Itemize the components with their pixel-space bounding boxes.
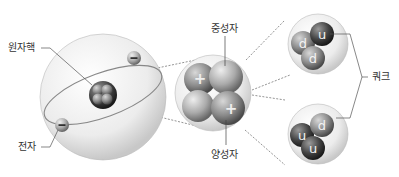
label-proton: 양성자 (211, 150, 238, 160)
label-electron: 전자 (18, 142, 36, 152)
svg-text:d: d (299, 36, 307, 51)
svg-text:u: u (309, 141, 317, 156)
electron-top (127, 51, 141, 65)
label-nucleus: 원자핵 (8, 43, 35, 53)
nucleus (89, 81, 117, 109)
neutron-quarks: d u d (288, 14, 348, 74)
atom-structure-diagram: + + d u d u d u (0, 0, 399, 177)
electron-bottom (55, 118, 69, 132)
atom (37, 34, 169, 160)
svg-text:u: u (318, 27, 326, 42)
proton-quarks: u d u (288, 104, 348, 164)
svg-text:u: u (298, 128, 306, 143)
svg-text:+: + (194, 70, 207, 88)
svg-text:+: + (225, 100, 238, 118)
svg-text:d: d (318, 118, 326, 133)
svg-text:d: d (309, 51, 317, 66)
label-quark: 쿼크 (372, 72, 390, 82)
label-neutron: 중성자 (211, 24, 238, 34)
nucleus-enlarged: + + (175, 55, 251, 131)
